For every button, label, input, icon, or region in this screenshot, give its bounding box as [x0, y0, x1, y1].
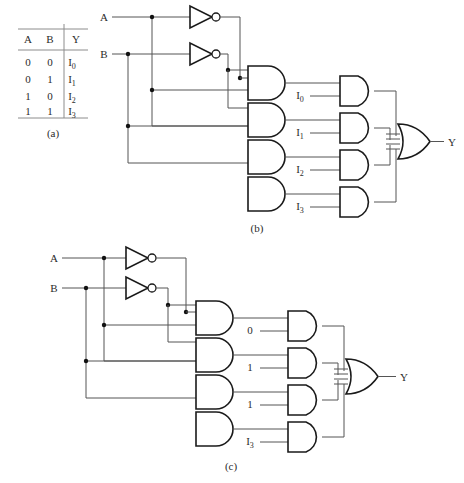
input-label-b: B	[100, 48, 107, 60]
cell-a: 0	[25, 56, 31, 68]
and-gate-minterm-3	[248, 177, 340, 211]
and-gate-minterm-1	[196, 338, 288, 372]
not-gate-b	[190, 43, 228, 65]
and-gate-select-2	[288, 380, 338, 415]
and-gate-select-2	[340, 145, 390, 180]
data-input-label-0: I0	[296, 89, 304, 104]
table-row: 0 0 I0	[25, 56, 76, 71]
output-label-y: Y	[448, 136, 456, 148]
cell-b: 1	[47, 73, 53, 85]
table-header-a: A	[24, 33, 32, 45]
cell-y: I0	[68, 56, 76, 71]
cell-b: 0	[47, 90, 53, 102]
cell-b: 1	[47, 105, 53, 117]
input-label-a: A	[50, 252, 58, 264]
not-gate-a	[126, 247, 186, 269]
and-gate-select-1	[288, 348, 338, 378]
cell-y: I1	[68, 73, 76, 88]
data-input-label-1: 1	[247, 361, 253, 373]
and-gate-minterm-3	[196, 412, 288, 446]
data-input-label-0: 0	[247, 324, 253, 336]
cell-y: I2	[68, 90, 76, 105]
and-gate-minterm-2	[196, 375, 288, 409]
not-gate-b	[126, 277, 168, 299]
data-input-label-3: I3	[246, 435, 254, 450]
cell-b: 0	[47, 56, 53, 68]
table-row: 0 1 I1	[25, 73, 76, 88]
data-input-label-3: I3	[296, 200, 304, 215]
and-gate-minterm-0	[196, 301, 288, 335]
table-row: 1 0 I2	[25, 90, 76, 105]
data-input-label-2: 1	[247, 398, 253, 410]
and-gate-minterm-2	[248, 140, 340, 174]
caption-b: (b)	[251, 222, 264, 235]
output-label-y: Y	[400, 371, 408, 383]
input-label-a: A	[100, 11, 108, 23]
and-gate-minterm-1	[248, 103, 340, 137]
multiplexer-figure: A B Y 0 0 I0 0 1 I1 1 0 I2 1 1 I3 (a) A …	[0, 0, 464, 483]
truth-table: A B Y 0 0 I0 0 1 I1 1 0 I2 1 1 I3 (a)	[18, 24, 88, 140]
cell-a: 0	[25, 73, 31, 85]
not-gate-a	[190, 6, 240, 28]
input-label-b: B	[50, 282, 57, 294]
table-header-b: B	[46, 33, 53, 45]
table-header-y: Y	[72, 33, 80, 45]
circuit-b: A B	[100, 6, 456, 235]
caption-a: (a)	[47, 127, 60, 140]
cell-a: 1	[25, 105, 31, 117]
cell-a: 1	[25, 90, 31, 102]
and-gate-select-1	[340, 113, 390, 143]
data-input-label-2: I2	[296, 163, 304, 178]
or-gate-output: Y	[334, 359, 408, 394]
data-input-label-1: I1	[296, 126, 304, 141]
or-gate-output: Y	[386, 124, 456, 159]
and-gate-minterm-0	[248, 66, 340, 100]
circuit-c: A B	[50, 247, 408, 473]
caption-c: (c)	[225, 460, 238, 473]
